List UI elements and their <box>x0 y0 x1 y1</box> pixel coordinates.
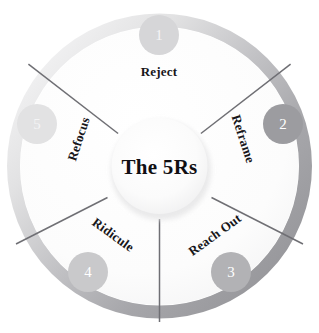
badge-number-2[interactable]: 2 <box>279 116 287 133</box>
badge-number-5[interactable]: 5 <box>33 116 41 133</box>
badge-number-1[interactable]: 1 <box>155 27 163 44</box>
badge-number-3[interactable]: 3 <box>227 264 235 281</box>
segment-label-reject[interactable]: Reject <box>141 64 178 80</box>
five-rs-wheel-diagram: Reject Reframe Reach Out Ridicule Refocu… <box>0 0 319 333</box>
center-title: The 5Rs <box>121 155 197 180</box>
badge-number-4[interactable]: 4 <box>84 264 92 281</box>
